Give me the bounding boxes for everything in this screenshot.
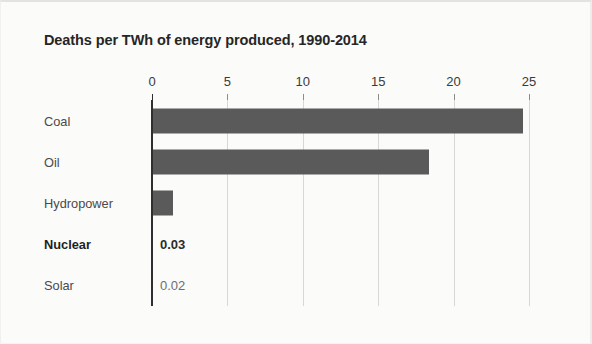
gridline — [529, 100, 530, 306]
value-label: 0.03 — [160, 237, 185, 252]
x-tick-label: 0 — [148, 74, 155, 89]
category-label: Solar — [44, 278, 74, 293]
x-tick-label: 20 — [446, 74, 460, 89]
plot-area — [152, 100, 529, 306]
value-label: 0.02 — [160, 278, 185, 293]
chart-page: Deaths per TWh of energy produced, 1990-… — [0, 0, 592, 344]
category-label: Hydropower — [44, 196, 113, 211]
bar — [152, 108, 523, 133]
chart-title: Deaths per TWh of energy produced, 1990-… — [44, 32, 367, 48]
category-label: Nuclear — [44, 237, 91, 252]
x-tick-label: 25 — [522, 74, 536, 89]
bar — [152, 149, 429, 174]
x-tick-label: 5 — [224, 74, 231, 89]
y-axis-line — [151, 100, 153, 306]
x-tick-label: 15 — [371, 74, 385, 89]
x-tick-label: 10 — [296, 74, 310, 89]
category-label: Oil — [44, 154, 60, 169]
category-label: Coal — [44, 113, 70, 128]
bar — [152, 191, 173, 216]
